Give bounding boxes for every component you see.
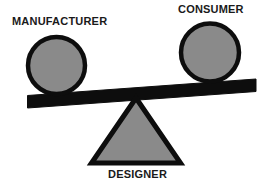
balance-diagram: MANUFACTURER CONSUMER DESIGNER: [0, 0, 266, 190]
balance-illustration: [0, 0, 266, 190]
consumer-circle: [181, 24, 239, 82]
label-consumer: CONSUMER: [178, 3, 244, 15]
left-weight-group: [28, 37, 85, 94]
right-weight-group: [181, 24, 239, 82]
label-designer: DESIGNER: [108, 168, 167, 180]
label-manufacturer: MANUFACTURER: [12, 15, 107, 27]
designer-triangle: [92, 98, 181, 163]
fulcrum-group: [92, 98, 181, 163]
manufacturer-circle: [28, 37, 85, 94]
